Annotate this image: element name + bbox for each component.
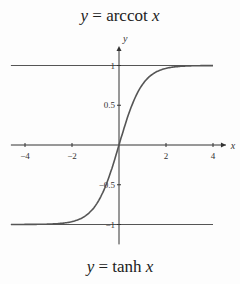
y-axis-label: y	[122, 33, 128, 44]
title-eq: = tanh	[94, 257, 146, 276]
chart-title: y = tanh x	[0, 257, 240, 277]
x-tick-label: 2	[164, 151, 169, 161]
title-x: x	[146, 257, 154, 276]
x-tick-label: 4	[211, 151, 216, 161]
y-tick-label: 1	[111, 61, 116, 71]
y-axis-arrow-icon	[117, 46, 122, 51]
tanh-plot: xy−4−22410.5−0.5−1	[0, 0, 240, 284]
y-tick-label: −1	[105, 220, 115, 230]
x-axis-label: x	[230, 140, 236, 151]
x-tick-label: −4	[20, 151, 30, 161]
y-tick-label: 0.5	[104, 100, 116, 110]
x-axis-arrow-icon	[221, 143, 226, 148]
x-tick-label: −2	[67, 151, 77, 161]
